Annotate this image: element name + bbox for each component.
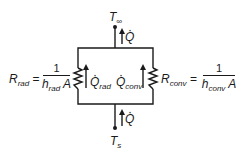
convection-resistance-name: Rconv = <box>161 73 197 88</box>
total-heat-label-top: Q <box>125 31 134 43</box>
r-conv-subscript: conv <box>170 79 187 88</box>
q-conv-symbol: Q <box>116 76 125 88</box>
top-temp-subscript: ∞ <box>116 17 122 26</box>
convection-resistor-icon <box>149 68 157 89</box>
surface-temperature-label: Ts <box>110 135 121 150</box>
r-conv-equals: = <box>190 72 197 86</box>
r-rad-numerator: 1 <box>53 63 59 75</box>
bottom-node-dot <box>113 126 117 130</box>
r-conv-numerator: 1 <box>216 63 222 75</box>
h-rad-subscript: rad <box>49 84 61 93</box>
radiation-resistance-fraction: 1 hrad A <box>43 63 70 93</box>
area-symbol-conv: A <box>228 77 236 91</box>
bottom-rail-wire <box>78 89 153 104</box>
r-rad-denominator: hrad A <box>42 76 71 93</box>
r-conv-symbol: R <box>161 72 170 86</box>
top-rail-wire <box>78 48 153 68</box>
total-heat-symbol-top: Q <box>125 31 134 43</box>
total-heat-symbol-bottom: Q <box>125 113 134 125</box>
radiation-resistor-icon <box>74 68 82 89</box>
total-heat-label-bottom: Q <box>125 113 134 125</box>
q-rad-symbol: Q <box>90 76 99 88</box>
h-conv-subscript: conv <box>208 84 225 93</box>
r-rad-symbol: R <box>9 72 18 86</box>
r-conv-denominator: hconv A <box>202 76 237 93</box>
r-rad-subscript: rad <box>18 79 30 88</box>
area-symbol-rad: A <box>63 77 71 91</box>
bottom-temp-subscript: s <box>117 141 121 150</box>
r-rad-equals: = <box>33 72 40 86</box>
radiation-heat-label: Qrad <box>90 76 111 91</box>
radiation-resistance-name: Rrad = <box>9 73 40 88</box>
h-rad-symbol: h <box>42 77 49 91</box>
convection-resistance-fraction: 1 hconv A <box>203 63 235 93</box>
q-conv-subscript: conv <box>125 82 142 91</box>
q-rad-subscript: rad <box>99 82 111 91</box>
convection-heat-label: Qconv <box>116 76 142 91</box>
top-temperature-label: T∞ <box>109 11 122 26</box>
